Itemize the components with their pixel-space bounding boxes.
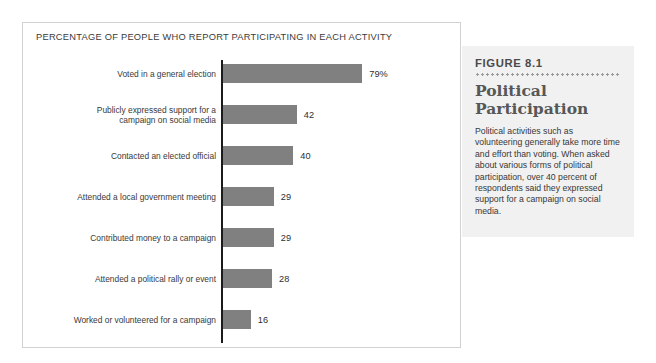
bar-chart-plot-area: Voted in a general election79%Publicly e… [23,56,462,348]
bar-category-label: Attended a political rally or event [40,273,216,284]
figure-number: FIGURE 8.1 [475,57,621,69]
figure-caption-text: Political activities such as volunteerin… [475,126,621,217]
bar-category-label: Attended a local government meeting [40,191,216,202]
bar [223,310,251,329]
figure-caption-box: FIGURE 8.1 Political Participation Polit… [462,46,634,237]
bar [223,228,274,247]
bar-value-label: 16 [258,315,268,325]
bar-category-label: Contacted an elected official [40,150,216,161]
dotted-divider [475,73,621,76]
figure-heading: Political Participation [475,82,621,117]
bar-category-label: Worked or volunteered for a campaign [40,314,216,325]
bar-row: Attended a local government meeting29 [23,187,462,206]
bar-value-label: 29 [281,192,291,202]
bar-category-label: Voted in a general election [40,68,216,79]
bar-row: Worked or volunteered for a campaign16 [23,310,462,329]
bar-row: Publicly expressed support for acampaign… [23,105,462,124]
bar-value-label: 42 [304,110,314,120]
bar-value-label: 79% [369,69,387,79]
bar-row: Contributed money to a campaign29 [23,228,462,247]
bar [223,187,274,206]
bar [223,146,294,165]
chart-panel: PERCENTAGE OF PEOPLE WHO REPORT PARTICIP… [22,22,461,348]
bar [223,269,273,288]
bar [223,64,363,83]
bar-row: Voted in a general election79% [23,64,462,83]
bar-value-label: 29 [281,233,291,243]
bar-row: Attended a political rally or event28 [23,269,462,288]
bar-category-label: Publicly expressed support for acampaign… [40,104,216,125]
bar-category-label: Contributed money to a campaign [40,232,216,243]
bar-value-label: 40 [300,151,310,161]
bar-row: Contacted an elected official40 [23,146,462,165]
chart-title: PERCENTAGE OF PEOPLE WHO REPORT PARTICIP… [36,32,392,42]
bar [223,105,297,124]
bar-value-label: 28 [279,274,289,284]
